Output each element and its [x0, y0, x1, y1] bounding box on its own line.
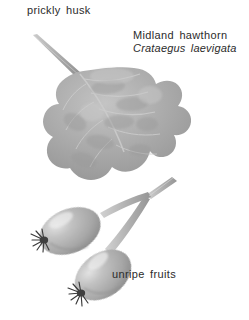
label-scientific-name: Crataegus laevigata: [133, 42, 237, 55]
label-unripe-fruits: unripe fruits: [112, 268, 176, 281]
label-prickly-husk: prickly husk: [27, 4, 91, 17]
leaf-blade: [43, 67, 191, 180]
botanical-plate: prickly husk Midland hawthorn Crataegus …: [0, 0, 249, 320]
label-common-name: Midland hawthorn: [133, 29, 227, 42]
fruit-stalk: [100, 177, 177, 254]
leaf-petiole: [33, 34, 81, 78]
